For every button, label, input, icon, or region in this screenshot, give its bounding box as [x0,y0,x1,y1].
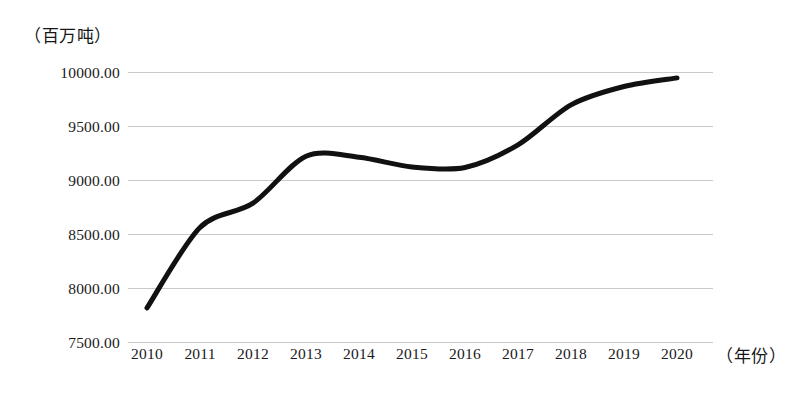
y-tick-label: 8000.00 [24,280,120,298]
y-tick-label: 8500.00 [24,226,120,244]
gridlines [128,73,713,343]
y-tick-label: 7500.00 [24,334,120,352]
x-tick-label: 2010 [131,345,163,363]
x-tick-label: 2016 [449,345,481,363]
x-tick-label: 2020 [661,345,693,363]
x-axis-title: （年份） [716,342,786,367]
line-chart: （百万吨） 10000.00 9500.00 9000.00 8500.00 8… [0,0,807,396]
plot-area [0,0,807,396]
x-tick-label: 2015 [396,345,428,363]
x-tick-label: 2019 [608,345,640,363]
x-tick-label: 2014 [343,345,375,363]
y-axis-tick-labels: 10000.00 9500.00 9000.00 8500.00 8000.00… [16,0,120,396]
x-tick-label: 2017 [502,345,534,363]
x-tick-label: 2012 [237,345,269,363]
y-tick-label: 9000.00 [24,172,120,190]
x-tick-label: 2018 [555,345,587,363]
x-tick-label: 2011 [184,345,215,363]
y-tick-label: 10000.00 [24,64,120,82]
data-series-line [147,78,677,308]
x-tick-label: 2013 [290,345,322,363]
y-tick-label: 9500.00 [24,118,120,136]
